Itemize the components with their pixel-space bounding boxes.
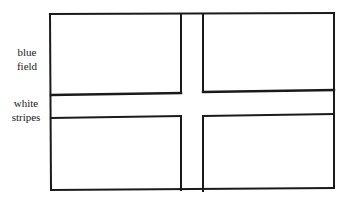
upper-left-field-bottom xyxy=(51,93,181,95)
lower-right-field-top xyxy=(203,114,334,116)
outer-left-edge xyxy=(50,14,51,189)
outer-bottom-edge xyxy=(51,188,334,190)
outer-top-edge xyxy=(50,13,334,14)
flag-diagram xyxy=(0,0,348,206)
upper-right-field-bottom xyxy=(203,90,334,92)
lower-left-field-top xyxy=(51,116,181,118)
